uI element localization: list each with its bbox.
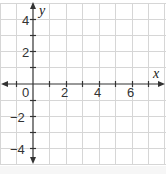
- y-tick-label-4: 4: [22, 13, 29, 28]
- y-tick-label-2: 2: [22, 45, 29, 60]
- y-tick-label-neg4: −4: [10, 142, 25, 157]
- bottom-band: [0, 166, 166, 174]
- x-tick-label-4: 4: [94, 85, 101, 100]
- coordinate-plane: y x 4 2 0 2 4 6 −2 −4: [0, 0, 166, 174]
- x-tick-label-2: 2: [61, 85, 68, 100]
- x-axis-label: x: [152, 66, 160, 81]
- origin-label: 0: [22, 85, 29, 100]
- y-axis-label: y: [37, 3, 46, 18]
- y-tick-label-neg2: −2: [10, 110, 25, 125]
- x-tick-label-6: 6: [127, 85, 134, 100]
